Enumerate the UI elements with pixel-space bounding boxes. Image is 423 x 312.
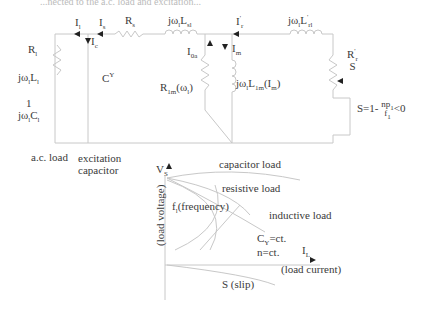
ll-label: jωlLl (18, 72, 39, 83)
n-condition-label: n=ct. (257, 247, 279, 258)
current-i1-label: Il (75, 17, 81, 28)
lsl-label: jωlLsl (168, 15, 192, 26)
excitation-capacitor-caption: excitation capacitor (78, 152, 121, 176)
slip-curve (167, 265, 275, 285)
rr-over-s-label: R'r S (347, 48, 358, 72)
lrl-label: jωlL'rl (288, 15, 313, 26)
figure-title: ...nected to the a.c. load and excitatio… (40, 0, 201, 7)
load-current-label: (load current) (281, 264, 341, 275)
ac-load-caption: a.c. load (31, 152, 68, 163)
frequency-label: fl(frequency) (172, 201, 229, 212)
cy-condition-label: CY=ct. (257, 233, 286, 244)
current-ic-label: Ic (91, 36, 98, 47)
current-im-arrow-icon (222, 44, 228, 50)
slip-label: S (slip) (222, 279, 254, 290)
capacitor-load-curve (167, 172, 300, 180)
current-i0a-label: I0a (187, 46, 197, 57)
lsl-inductor (165, 30, 197, 34)
current-im-label: Im (232, 43, 241, 54)
y-axis-arrow-icon (166, 163, 172, 169)
capacitor-load-label: capacitor load (219, 159, 281, 170)
current-is-arrow-icon (97, 31, 103, 37)
current-ir-arrow-icon (233, 31, 239, 37)
l1m-label: jωlL1m(Im) (236, 78, 280, 89)
current-ir-label: I'r (236, 16, 243, 27)
current-i0a-arrow-icon (207, 40, 213, 46)
cy-label: CY (102, 73, 114, 84)
r1m-label: R1m(ωl) (160, 82, 193, 93)
slip-formula: S=1- np1f1<0 (357, 100, 405, 118)
rl-label: Rl (28, 44, 37, 55)
rs-label: Rs (125, 15, 135, 26)
rr-variable-resistor (329, 55, 337, 90)
current-i1-arrow-icon (74, 31, 80, 37)
r1m-resistor (201, 55, 209, 90)
lrl-inductor (290, 30, 322, 34)
cl-label: 1 jωlCl (18, 97, 40, 121)
load-voltage-label: (load voltage) (155, 185, 166, 246)
rl-resistor (53, 45, 61, 75)
inductive-load-label: inductive load (269, 210, 332, 221)
variable-resistor-arrow-icon (337, 78, 343, 84)
il-axis-symbol: IL (302, 245, 310, 256)
current-is-label: Is (99, 17, 105, 28)
resistive-load-label: resistive load (222, 183, 280, 194)
rs-resistor (115, 31, 143, 37)
